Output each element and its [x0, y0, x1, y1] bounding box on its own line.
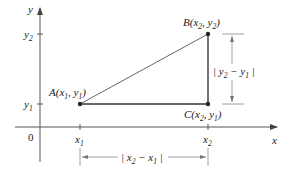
- horizontal-distance-label: | x2 − x1 |: [121, 151, 163, 166]
- point-b: [206, 32, 210, 36]
- x2-tick-label: x2: [202, 133, 212, 148]
- right-triangle: [80, 34, 208, 104]
- x-axis-label: x: [271, 134, 277, 146]
- point-a: [78, 102, 82, 106]
- distance-diagram: y x 0 y2 y1 x1 x2 A(x1, y1) B(x2, y2) C(…: [0, 0, 291, 173]
- origin-label: 0: [28, 131, 34, 143]
- hypotenuse-ab: [80, 34, 208, 104]
- x1-tick-label: x1: [74, 133, 84, 148]
- y1-tick-label: y1: [23, 98, 33, 113]
- point-b-label: B(x2, y2): [183, 16, 220, 31]
- point-c-label: C(x2, y1): [184, 108, 222, 123]
- point-a-label: A(x1, y1): [48, 86, 86, 101]
- y-axis-label: y: [27, 3, 33, 15]
- y2-tick-label: y2: [23, 28, 33, 43]
- vertical-distance-label: | y2 − y1 |: [213, 65, 255, 80]
- point-c: [206, 102, 210, 106]
